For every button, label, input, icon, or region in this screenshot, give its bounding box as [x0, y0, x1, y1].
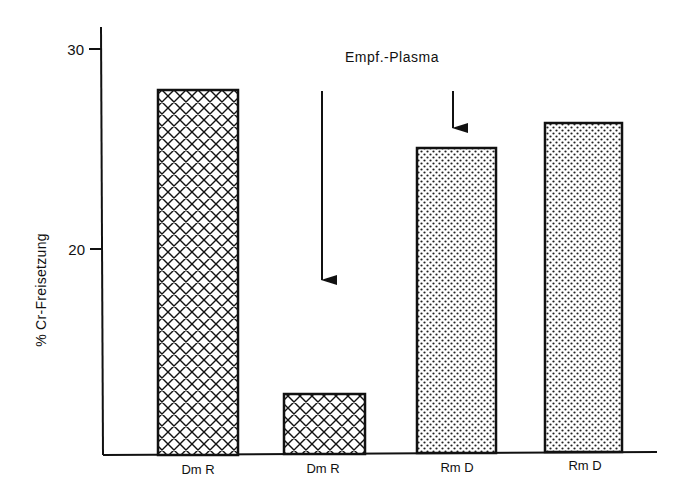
bar-rm-d-2: [545, 123, 622, 452]
bar-dm-r-2: [284, 394, 365, 454]
y-tick-30: 30: [67, 41, 101, 58]
y-tick-20: 20: [68, 241, 102, 258]
bar-chart: 30 20 % Cr-Freisetzung Dm R Dm R Rm D Rm…: [0, 0, 693, 493]
category-label-3: Rm D: [440, 460, 473, 475]
annotation-empf-plasma: Empf.-Plasma: [345, 49, 439, 65]
category-label-1: Dm R: [181, 462, 214, 477]
y-axis: [101, 27, 103, 455]
y-tick-label-20: 20: [68, 241, 85, 258]
category-label-4: Rm D: [568, 458, 601, 473]
bar-rm-d-1: [417, 148, 496, 453]
y-tick-label-30: 30: [67, 41, 84, 58]
category-label-2: Dm R: [306, 461, 339, 476]
bar-dm-r-1: [158, 90, 238, 455]
y-axis-label: % Cr-Freisetzung: [33, 233, 49, 347]
